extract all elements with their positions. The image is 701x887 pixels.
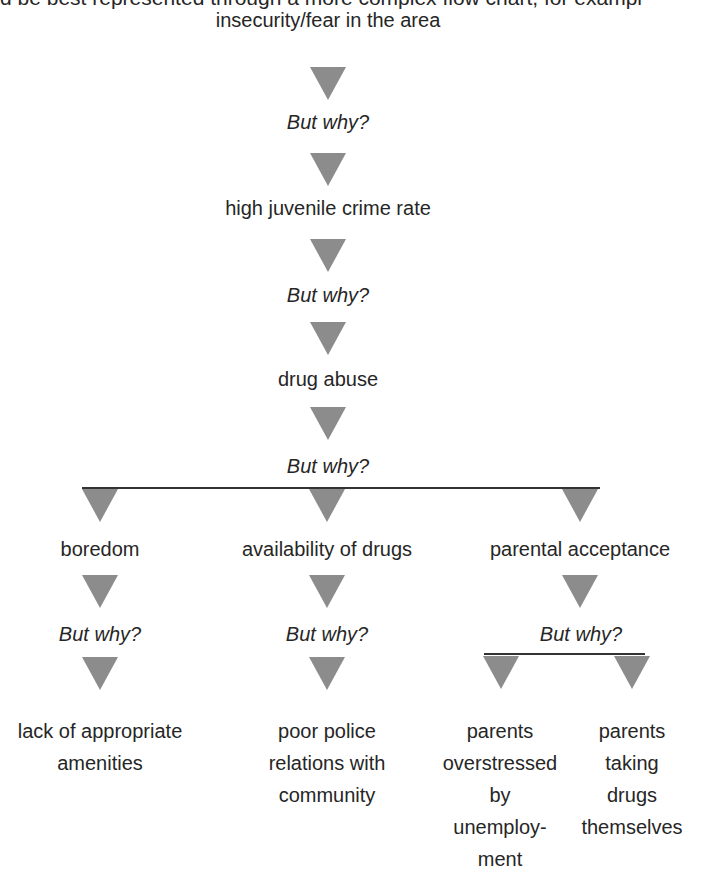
node-drug-abuse: drug abuse	[278, 363, 378, 395]
node-text-line: lack of appropriate	[18, 715, 183, 747]
arrow-down-icon	[562, 575, 598, 608]
node-text-line: overstressed	[443, 747, 558, 779]
node-text-line: community	[269, 779, 386, 811]
node-text-line: parents	[443, 715, 558, 747]
node-availability-of-drugs: availability of drugs	[242, 533, 412, 565]
node-parents-overstressed: parents overstressed by unemploy- ment	[443, 715, 558, 875]
node-text-line: amenities	[18, 747, 183, 779]
node-text-line: themselves	[581, 811, 682, 843]
arrow-down-icon	[310, 239, 346, 272]
node-parental-acceptance: parental acceptance	[490, 533, 670, 565]
node-text-line: by	[443, 779, 558, 811]
arrow-down-icon	[562, 489, 598, 522]
arrow-down-icon	[82, 489, 118, 522]
node-lack-of-amenities: lack of appropriate amenities	[18, 715, 183, 779]
arrow-down-icon	[309, 657, 345, 690]
arrow-down-icon	[614, 656, 650, 689]
node-insecurity: insecurity/fear in the area	[216, 4, 441, 36]
node-text-line: poor police	[269, 715, 386, 747]
sub-branch-line	[484, 653, 645, 655]
node-text-line: relations with	[269, 747, 386, 779]
arrow-down-icon	[483, 656, 519, 689]
arrow-down-icon	[82, 657, 118, 690]
arrow-down-icon	[309, 489, 345, 522]
question-label: But why?	[59, 618, 141, 650]
node-boredom: boredom	[61, 533, 140, 565]
node-text-line: drugs	[581, 779, 682, 811]
node-text-line: ment	[443, 843, 558, 875]
node-juvenile-crime: high juvenile crime rate	[225, 192, 431, 224]
arrow-down-icon	[310, 67, 346, 100]
arrow-down-icon	[309, 575, 345, 608]
arrow-down-icon	[310, 322, 346, 355]
node-parents-taking-drugs: parents taking drugs themselves	[581, 715, 682, 843]
node-text-line: unemploy-	[443, 811, 558, 843]
arrow-down-icon	[310, 153, 346, 186]
question-label: But why?	[286, 618, 368, 650]
question-label: But why?	[287, 106, 369, 138]
question-label: But why?	[540, 618, 622, 650]
node-text-line: parents	[581, 715, 682, 747]
arrow-down-icon	[310, 407, 346, 440]
node-poor-police-relations: poor police relations with community	[269, 715, 386, 811]
node-text-line: taking	[581, 747, 682, 779]
question-label: But why?	[287, 450, 369, 482]
question-label: But why?	[287, 279, 369, 311]
arrow-down-icon	[82, 575, 118, 608]
